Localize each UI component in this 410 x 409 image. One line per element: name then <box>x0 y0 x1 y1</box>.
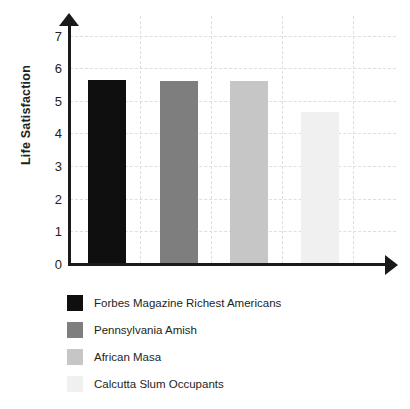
bar <box>88 80 126 264</box>
bar <box>160 81 198 264</box>
y-axis-tick-label: 3 <box>40 160 62 173</box>
legend-item-label: Pennsylvania Amish <box>94 323 197 337</box>
gridline-vertical <box>282 16 283 264</box>
y-axis-tick-label: 6 <box>40 62 62 75</box>
bar-chart-figure: Life Satisfaction 01234567 Forbes Magazi… <box>0 0 410 409</box>
y-axis-tick-label: 4 <box>40 127 62 140</box>
y-axis-tick-label: 5 <box>40 95 62 108</box>
y-axis-tick-label: 1 <box>40 225 62 238</box>
x-axis-arrow-icon <box>385 255 398 275</box>
gridline-vertical <box>353 16 354 264</box>
legend-color-swatch <box>67 376 83 392</box>
y-axis-tick-labels: 01234567 <box>36 16 62 264</box>
legend-item: Calcutta Slum Occupants <box>67 370 397 397</box>
gridline-horizontal <box>70 68 396 69</box>
gridline-vertical <box>140 16 141 264</box>
legend-item: Forbes Magazine Richest Americans <box>67 289 397 316</box>
plot-area <box>70 16 396 264</box>
y-axis-arrow-icon <box>59 13 79 26</box>
bar <box>301 112 339 264</box>
legend-color-swatch <box>67 322 83 338</box>
gridline-vertical <box>211 16 212 264</box>
legend-item-label: African Masa <box>94 350 161 364</box>
legend: Forbes Magazine Richest AmericansPennsyl… <box>67 289 397 397</box>
legend-item-label: Calcutta Slum Occupants <box>94 377 224 391</box>
legend-color-swatch <box>67 295 83 311</box>
bar <box>230 81 268 264</box>
gridline-horizontal <box>70 36 396 37</box>
legend-item: Pennsylvania Amish <box>67 316 397 343</box>
legend-color-swatch <box>67 349 83 365</box>
legend-item-label: Forbes Magazine Richest Americans <box>94 296 281 310</box>
y-axis-title: Life Satisfaction <box>19 45 33 185</box>
x-axis-line <box>68 263 388 266</box>
y-axis-tick-label: 2 <box>40 193 62 206</box>
y-axis-line <box>68 22 71 266</box>
y-axis-tick-label: 0 <box>40 258 62 271</box>
y-axis-tick-label: 7 <box>40 30 62 43</box>
legend-item: African Masa <box>67 343 397 370</box>
